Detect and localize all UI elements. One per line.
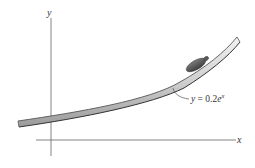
equation-middle: = 0.2 <box>195 94 217 104</box>
exponential-curve-diagram: y x y = 0.2ex <box>0 0 255 168</box>
track-bottom-edge <box>19 42 240 127</box>
equation-exponent: x <box>220 92 224 99</box>
x-axis-label: x <box>236 134 242 145</box>
y-axis-label: y <box>46 7 52 18</box>
equation-label: y = 0.2ex <box>190 92 224 104</box>
